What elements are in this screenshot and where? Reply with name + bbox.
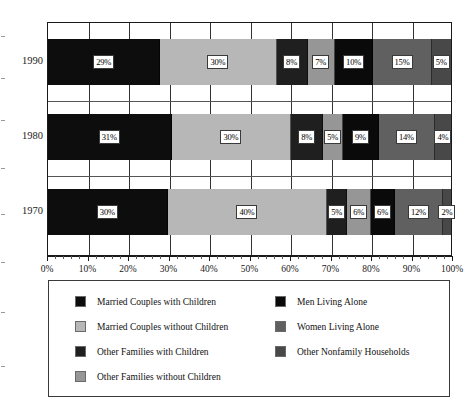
x-tick-major [250,256,251,261]
x-tick-minor [306,256,307,259]
bar-segment-value-label: 15% [392,55,413,70]
x-tick-label: 10% [79,264,96,274]
category-label-1990: 1990 [8,55,43,66]
x-tick-minor [160,256,161,259]
category-label-1980: 1980 [8,130,43,141]
x-tick-label: 90% [403,264,420,274]
x-tick-major [209,256,210,261]
legend-swatch [75,346,86,357]
x-tick-minor [71,256,72,259]
bar-segment-value-label: 14% [396,130,417,145]
x-tick-label: 50% [241,264,258,274]
bar-segment-value-label: 29% [93,55,114,70]
x-tick-major [88,256,89,261]
legend-label: Other Families without Children [97,372,221,382]
x-tick-minor [379,256,380,259]
bar-segment: 6% [347,189,371,235]
x-tick-minor [104,256,105,259]
legend-label: Other Families with Children [97,347,209,357]
bar-segment: 10% [335,39,374,85]
legend-item: Other Families with Children [75,339,228,364]
x-tick-minor [241,256,242,259]
bar-1980: 31%30%8%5%9%14%4% [48,114,451,160]
x-tick-minor [144,256,145,259]
legend-label: Other Nonfamily Households [297,347,409,357]
x-tick-major [169,256,170,261]
bar-segment-value-label: 30% [220,130,241,145]
bar-segment: 15% [373,39,431,85]
legend-swatch [75,371,86,382]
bar-segment-value-label: 5% [433,55,450,70]
x-tick-minor [274,256,275,259]
x-tick-label: 0% [41,264,54,274]
legend-swatch [275,296,286,307]
x-tick-minor [79,256,80,259]
bar-1970: 30%40%5%6%6%12%2% [48,189,451,235]
x-tick-major [128,256,129,261]
bar-segment: 14% [379,114,435,160]
legend-label: Married Couples with Children [97,297,216,307]
legend-label: Married Couples without Children [97,322,228,332]
legend-swatch [275,321,286,332]
x-tick-label: 20% [119,264,136,274]
bar-segment-value-label: 8% [283,55,300,70]
plot-area: 29%30%8%7%10%15%5%31%30%8%5%9%14%4%30%40… [47,22,452,256]
stacked-bar-chart: 29%30%8%7%10%15%5%31%30%8%5%9%14%4%30%40… [0,0,471,410]
bar-segment: 30% [48,189,168,235]
x-tick-minor [136,256,137,259]
x-tick-minor [355,256,356,259]
x-tick-minor [339,256,340,259]
x-tick-major [452,256,453,261]
category-label-1970: 1970 [8,205,43,216]
bar-segment-value-label: 12% [408,205,429,220]
legend-swatch [75,321,86,332]
gridline-horizontal [48,101,451,102]
bar-segment: 6% [371,189,395,235]
x-tick-minor [444,256,445,259]
x-tick-major [371,256,372,261]
bar-segment-value-label: 2% [438,205,455,220]
x-tick-minor [217,256,218,259]
bar-segment-value-label: 4% [434,130,451,145]
bar-segment: 5% [432,39,451,85]
bar-segment: 5% [323,114,343,160]
legend-label: Men Living Alone [297,297,367,307]
x-tick-minor [314,256,315,259]
bar-segment-value-label: 7% [312,55,329,70]
legend-swatch [75,296,86,307]
x-axis-line [47,256,452,257]
x-tick-label: 70% [322,264,339,274]
bar-segment-value-label: 31% [99,130,120,145]
x-tick-minor [120,256,121,259]
legend-column-right: Men Living AloneWomen Living AloneOther … [275,289,409,364]
x-tick-minor [266,256,267,259]
x-tick-minor [298,256,299,259]
bar-segment: 5% [327,189,347,235]
x-tick-minor [363,256,364,259]
x-tick-minor [63,256,64,259]
x-tick-minor [428,256,429,259]
x-tick-minor [55,256,56,259]
x-tick-major [331,256,332,261]
x-tick-major [412,256,413,261]
x-tick-minor [436,256,437,259]
legend-item: Married Couples without Children [75,314,228,339]
bar-segment: 2% [443,189,451,235]
x-tick-minor [347,256,348,259]
bar-segment: 31% [48,114,172,160]
x-tick-minor [177,256,178,259]
legend-column-left: Married Couples with ChildrenMarried Cou… [75,289,228,389]
bar-segment-value-label: 5% [324,130,341,145]
x-tick-minor [403,256,404,259]
x-tick-minor [282,256,283,259]
bar-1990: 29%30%8%7%10%15%5% [48,39,451,85]
x-tick-label: 100% [441,264,463,274]
x-tick-minor [185,256,186,259]
x-tick-minor [420,256,421,259]
x-tick-minor [225,256,226,259]
bar-segment-value-label: 9% [352,130,369,145]
x-tick-minor [322,256,323,259]
bar-segment-value-label: 40% [236,205,257,220]
x-tick-minor [96,256,97,259]
bar-segment: 9% [343,114,379,160]
